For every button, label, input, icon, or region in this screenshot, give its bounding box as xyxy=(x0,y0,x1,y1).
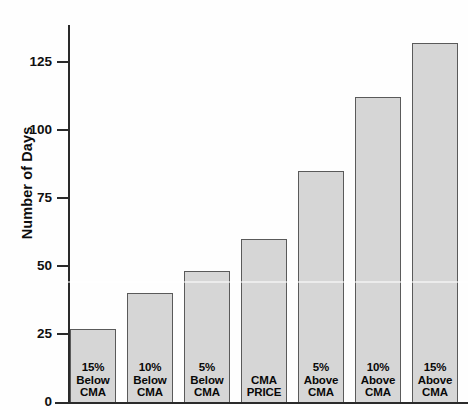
bar-category-label-line: CMA xyxy=(71,386,115,399)
bar-category-label-line: CMA xyxy=(185,386,229,399)
bar-category-label: 10%AboveCMA xyxy=(356,361,400,399)
bar-category-label-line: Above xyxy=(413,374,457,387)
bar: 5%AboveCMA xyxy=(298,171,344,402)
bar: 10%AboveCMA xyxy=(355,97,401,402)
bar-category-label-line: 10% xyxy=(128,361,172,374)
bar-category-label-line: PRICE xyxy=(242,386,286,399)
bar: 10%BelowCMA xyxy=(127,293,173,402)
bar: CMAPRICE xyxy=(241,239,287,402)
bar-category-label: CMAPRICE xyxy=(242,374,286,399)
bar: 5%BelowCMA xyxy=(184,271,230,402)
bar-category-label: 15%AboveCMA xyxy=(413,361,457,399)
bar: 15%AboveCMA xyxy=(412,43,458,402)
bar-category-label-line: 5% xyxy=(299,361,343,374)
bar-category-label-line: CMA xyxy=(413,386,457,399)
bar-category-label: 15%BelowCMA xyxy=(71,361,115,399)
bar-category-label-line: CMA xyxy=(242,374,286,387)
bar-category-label-line: Below xyxy=(71,374,115,387)
bar-category-label-line: Below xyxy=(128,374,172,387)
bar-category-label-line: Above xyxy=(356,374,400,387)
bar-category-label: 5%AboveCMA xyxy=(299,361,343,399)
bar-category-label-line: Below xyxy=(185,374,229,387)
bar-category-label: 10%BelowCMA xyxy=(128,361,172,399)
bar-category-label: 5%BelowCMA xyxy=(185,361,229,399)
bar-category-label-line: CMA xyxy=(356,386,400,399)
plot-area: 15%BelowCMA10%BelowCMA5%BelowCMACMAPRICE… xyxy=(0,0,468,410)
bar-category-label-line: 15% xyxy=(71,361,115,374)
bar-category-label-line: CMA xyxy=(128,386,172,399)
bar-category-label-line: 10% xyxy=(356,361,400,374)
bar-category-label-line: 15% xyxy=(413,361,457,374)
bar-category-label-line: 5% xyxy=(185,361,229,374)
bar: 15%BelowCMA xyxy=(70,329,116,402)
bar-chart: Number of Days 0255075100125 15%BelowCMA… xyxy=(0,0,468,410)
bar-category-label-line: Above xyxy=(299,374,343,387)
bar-category-label-line: CMA xyxy=(299,386,343,399)
